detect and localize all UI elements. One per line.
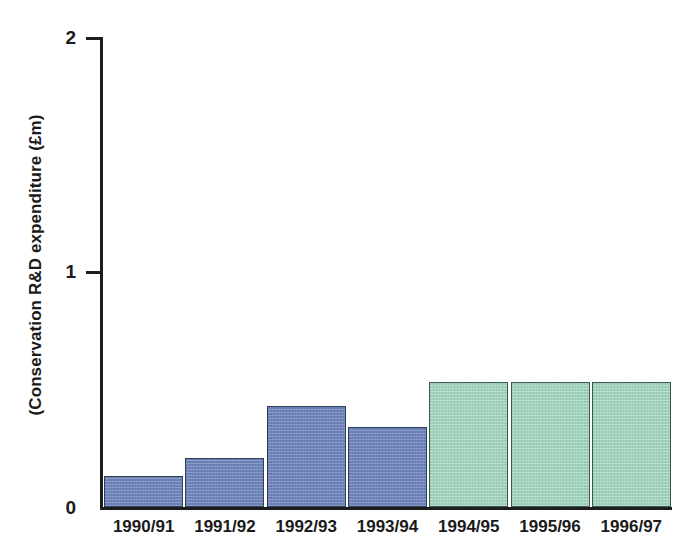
bar [348,427,427,507]
x-axis-tick-label: 1992/93 [266,518,347,535]
y-axis-title: (Conservation R&D expenditure (£m) [26,15,46,515]
bar [185,458,264,507]
x-axis-line [100,507,672,510]
bar [429,382,508,507]
y-axis-tick-label-1: 1 [52,262,76,281]
x-axis-tick-label: 1990/91 [103,518,184,535]
y-axis-tick-2 [86,37,103,40]
x-axis-tick-label: 1994/95 [428,518,509,535]
y-axis-tick-1 [86,271,103,274]
y-axis-tick-label-0: 0 [52,498,76,517]
plot-area [103,37,672,507]
bar [592,382,671,507]
x-axis-tick-label: 1991/92 [184,518,265,535]
x-axis-tick-label: 1996/97 [591,518,672,535]
bar-chart: (Conservation R&D expenditure (£m) 2 1 0… [0,0,698,559]
bar [511,382,590,507]
y-axis-tick-label-2: 2 [52,28,76,47]
x-axis-tick-label: 1995/96 [509,518,590,535]
bar [267,406,346,507]
x-axis-tick-label: 1993/94 [347,518,428,535]
bar [104,476,183,507]
